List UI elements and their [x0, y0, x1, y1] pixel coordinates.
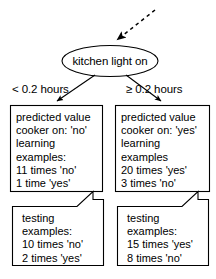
root-node-label: kitchen light on: [60, 55, 160, 68]
prediction-right-line-4: examples: [121, 151, 197, 164]
prediction-left-line-5: 11 times 'no': [16, 164, 91, 177]
testing-right-line-1: testing: [127, 212, 193, 225]
prediction-right-line-3: learning: [121, 137, 197, 150]
testing-left-line-1: testing: [22, 212, 83, 225]
prediction-right-line-1: predicted value: [121, 111, 197, 124]
testing-left-line-2: examples:: [22, 225, 83, 238]
prediction-left-line-6: 1 time 'yes': [16, 177, 91, 190]
prediction-box-left-text: predicted value cooker on: 'no' learning…: [16, 111, 91, 190]
testing-left-line-3: 10 times 'no': [22, 238, 83, 251]
testing-box-right-text: testing examples: 15 times 'yes' 8 times…: [127, 212, 193, 265]
prediction-left-line-2: cooker on: 'no': [16, 124, 91, 137]
testing-box-left-text: testing examples: 10 times 'no' 2 times …: [22, 212, 83, 265]
prediction-left-line-4: examples:: [16, 151, 91, 164]
prediction-left-line-3: learning: [16, 137, 91, 150]
edge-label-left: < 0.2 hours: [12, 83, 69, 96]
testing-right-line-2: examples:: [127, 225, 193, 238]
testing-left-line-4: 2 times 'yes': [22, 252, 83, 265]
dashed-pointer-arrow: [117, 10, 155, 40]
prediction-left-line-1: predicted value: [16, 111, 91, 124]
prediction-right-line-6: 3 times 'no': [121, 177, 197, 190]
prediction-right-line-2: cooker on: 'yes': [121, 124, 197, 137]
prediction-right-line-5: 20 times 'yes': [121, 164, 197, 177]
testing-right-line-4: 8 times 'no': [127, 252, 193, 265]
testing-right-line-3: 15 times 'yes': [127, 238, 193, 251]
decision-tree-diagram: kitchen light on < 0.2 hours ≥ 0.2 hours…: [0, 0, 216, 279]
prediction-box-right-text: predicted value cooker on: 'yes' learnin…: [121, 111, 197, 190]
edge-label-right: ≥ 0.2 hours: [126, 83, 182, 96]
